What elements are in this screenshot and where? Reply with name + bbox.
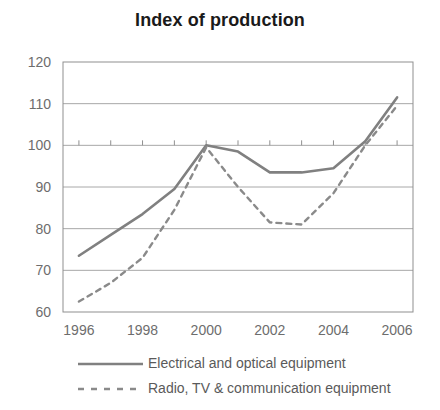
x-axis-label: 2000 (191, 322, 222, 338)
x-axis-label: 1996 (63, 322, 94, 338)
series-line-1 (79, 97, 397, 255)
y-axis-tick-labels: 60708090100110120 (28, 54, 52, 320)
y-axis-label: 60 (35, 304, 51, 320)
x-axis-tick-labels: 199619982000200220042006 (63, 322, 413, 338)
data-series (79, 97, 397, 301)
y-axis-label: 80 (35, 221, 51, 237)
x-axis-label: 2004 (318, 322, 349, 338)
y-axis-label: 120 (28, 54, 52, 70)
x-axis-tick-marks (79, 140, 397, 145)
chart-plot: 60708090100110120 1996199820002002200420… (0, 0, 440, 410)
chart-legend: Electrical and optical equipmentRadio, T… (78, 355, 391, 396)
chart-container: Index of production 60708090100110120 19… (0, 0, 440, 410)
y-axis-label: 100 (28, 137, 52, 153)
y-axis-label: 90 (35, 179, 51, 195)
y-axis-label: 70 (35, 262, 51, 278)
series-line-2 (79, 106, 397, 302)
legend-label-2: Radio, TV & communication equipment (148, 380, 391, 396)
x-axis-label: 1998 (127, 322, 158, 338)
x-axis-label: 2002 (254, 322, 285, 338)
y-axis-label: 110 (29, 96, 52, 112)
legend-label-1: Electrical and optical equipment (148, 355, 346, 371)
x-axis-label: 2006 (382, 322, 413, 338)
